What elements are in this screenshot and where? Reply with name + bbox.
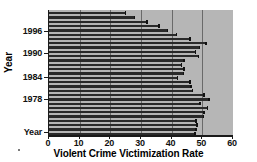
x-tick-label-30: 30 <box>128 138 152 148</box>
y-axis-title: Year <box>3 33 14 93</box>
bar <box>49 107 208 109</box>
bar-end-cap <box>158 24 160 28</box>
bar-end-cap <box>177 76 179 80</box>
y-tick-label-year: Year <box>24 127 42 137</box>
bar-end-cap <box>134 16 136 20</box>
bar <box>49 42 206 44</box>
bar-end-cap <box>203 115 205 119</box>
bar <box>49 77 178 79</box>
x-tick-label-0: 0 <box>36 138 60 148</box>
bar-end-cap <box>146 20 148 24</box>
bar-end-cap <box>203 93 205 97</box>
x-tick-label-50: 50 <box>189 138 213 148</box>
bar-end-cap <box>207 106 209 110</box>
bar-end-cap <box>205 42 207 46</box>
scan-artifact-speck <box>18 149 20 151</box>
bar-end-cap <box>198 55 200 59</box>
y-tick-label-1996: 1996 <box>23 26 42 36</box>
x-tick-label-60: 60 <box>220 138 244 148</box>
x-tick-label-40: 40 <box>159 138 183 148</box>
bar <box>49 103 200 105</box>
bar <box>49 12 126 14</box>
bar-end-cap <box>196 123 198 127</box>
bar <box>49 34 177 36</box>
y-tick-1990 <box>44 53 48 54</box>
bar-end-cap <box>183 72 185 76</box>
bar-end-cap <box>189 37 191 41</box>
bar-end-cap <box>203 111 205 115</box>
bar <box>49 51 196 53</box>
bar-end-cap <box>183 59 185 63</box>
bar <box>49 120 196 122</box>
bar <box>49 59 184 61</box>
bar <box>49 16 135 18</box>
bar-end-cap <box>125 11 127 15</box>
bar <box>49 29 168 31</box>
bar <box>49 111 204 113</box>
y-tick-label-1990: 1990 <box>23 48 42 58</box>
bar <box>49 85 191 87</box>
x-axis-title: Violent Crime Victimization Rate <box>0 148 257 159</box>
bar <box>49 124 197 126</box>
bar <box>49 38 190 40</box>
y-tick-label-1984: 1984 <box>23 72 42 82</box>
bar-end-cap <box>176 33 178 37</box>
bar <box>49 98 209 100</box>
bar-end-cap <box>199 46 201 50</box>
bar-end-cap <box>192 89 194 93</box>
y-tick-label-1978: 1978 <box>23 94 42 104</box>
bar-end-cap <box>195 128 197 132</box>
bar <box>49 64 182 66</box>
bar <box>49 81 190 83</box>
bar-end-cap <box>167 29 169 33</box>
bar-end-cap <box>190 85 192 89</box>
bar <box>49 115 204 117</box>
bar <box>49 21 147 23</box>
bar <box>49 25 159 27</box>
bar-end-cap <box>195 50 197 54</box>
bar <box>49 68 184 70</box>
bar-end-cap <box>181 63 183 67</box>
bar-end-cap <box>208 98 210 102</box>
bar <box>49 72 184 74</box>
bar <box>49 128 196 130</box>
x-tick-label-10: 10 <box>67 138 91 148</box>
bar <box>49 90 193 92</box>
y-tick-1978 <box>44 99 48 100</box>
chart-figure: 0 10 20 30 40 50 60 1996 1990 1984 1978 … <box>0 0 257 162</box>
y-tick-1984 <box>44 77 48 78</box>
bar-end-cap <box>183 67 185 71</box>
y-tick-1996 <box>44 31 48 32</box>
bar-end-cap <box>199 102 201 106</box>
bar <box>49 46 200 48</box>
bar-end-cap <box>189 80 191 84</box>
plot-area <box>48 10 233 135</box>
x-tick-label-20: 20 <box>97 138 121 148</box>
y-tick-year <box>44 132 48 133</box>
bar <box>49 94 204 96</box>
bar-end-cap <box>195 119 197 123</box>
bar <box>49 55 199 57</box>
